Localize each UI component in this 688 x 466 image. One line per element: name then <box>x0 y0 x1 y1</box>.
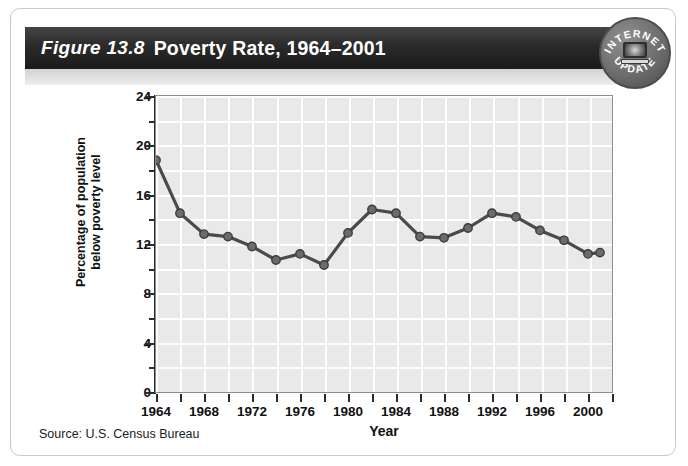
data-point-marker <box>272 256 280 264</box>
x-tick <box>564 394 566 402</box>
x-tick <box>612 394 614 402</box>
x-tick-label: 1980 <box>333 404 363 419</box>
figure-title-bar: Figure 13.8 Poverty Rate, 1964–2001 <box>25 27 639 69</box>
figure-card: Figure 13.8 Poverty Rate, 1964–2001 INTE… <box>10 8 676 456</box>
data-point-marker <box>296 250 304 258</box>
x-axis-tick-labels: 1964196819721976198019841988199219962000 <box>155 404 613 424</box>
x-tick-label: 1988 <box>429 404 459 419</box>
x-tick <box>372 394 374 402</box>
x-tick <box>156 394 158 402</box>
x-tick-label: 1996 <box>525 404 555 419</box>
x-tick <box>468 394 470 402</box>
x-tick-label: 1972 <box>237 404 267 419</box>
x-tick <box>228 394 230 402</box>
x-tick <box>492 394 494 402</box>
x-tick-label: 1984 <box>381 404 411 419</box>
data-point-marker <box>416 232 424 240</box>
x-tick <box>540 394 542 402</box>
x-tick <box>516 394 518 402</box>
x-tick <box>420 394 422 402</box>
x-tick <box>252 394 254 402</box>
x-tick <box>180 394 182 402</box>
chart-area: Percentage of population below poverty l… <box>25 85 639 425</box>
x-tick-label: 1992 <box>477 404 507 419</box>
figure-title: Poverty Rate, 1964–2001 <box>154 37 386 60</box>
data-point-marker <box>320 261 328 269</box>
x-tick <box>444 394 446 402</box>
x-tick-label: 1964 <box>141 404 171 419</box>
data-point-marker <box>368 205 376 213</box>
y-axis-title-line2: below poverty level <box>89 102 104 322</box>
data-point-marker <box>512 213 520 221</box>
x-tick-label: 2000 <box>573 404 603 419</box>
x-tick <box>348 394 350 402</box>
x-axis-ticks <box>155 394 613 403</box>
x-tick <box>396 394 398 402</box>
source-note: Source: U.S. Census Bureau <box>39 427 200 441</box>
x-tick <box>324 394 326 402</box>
data-point-marker <box>344 229 352 237</box>
data-point-marker <box>584 250 592 258</box>
y-axis-title-line1: Percentage of population <box>74 102 89 322</box>
title-underband <box>25 69 639 85</box>
data-point-marker <box>224 232 232 240</box>
data-point-marker <box>596 248 604 256</box>
x-axis-title: Year <box>155 423 613 439</box>
x-tick-label: 1968 <box>189 404 219 419</box>
data-point-marker <box>440 234 448 242</box>
data-point-marker <box>560 236 568 244</box>
figure-number: Figure 13.8 <box>41 37 145 59</box>
data-point-marker <box>464 224 472 232</box>
series-line <box>156 160 600 265</box>
internet-update-badge[interactable]: INTERNET UPDATE <box>599 17 671 89</box>
data-point-marker <box>392 209 400 217</box>
y-axis-title: Percentage of population below poverty l… <box>74 102 104 322</box>
x-tick <box>276 394 278 402</box>
x-tick <box>204 394 206 402</box>
data-point-marker <box>156 156 160 164</box>
data-point-marker <box>200 230 208 238</box>
data-point-marker <box>536 226 544 234</box>
data-point-marker <box>488 209 496 217</box>
x-tick-label: 1976 <box>285 404 315 419</box>
data-point-marker <box>248 242 256 250</box>
x-tick <box>300 394 302 402</box>
plot-area <box>155 95 613 393</box>
x-tick <box>588 394 590 402</box>
poverty-rate-line-series <box>156 96 612 392</box>
computer-monitor-icon <box>618 39 652 67</box>
data-point-marker <box>176 209 184 217</box>
